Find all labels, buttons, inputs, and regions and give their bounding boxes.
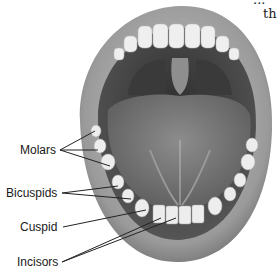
- label-bicuspids: Bicuspids: [6, 186, 57, 200]
- cropped-text-line-2: th: [263, 6, 277, 22]
- label-cuspid: Cuspid: [20, 220, 57, 234]
- label-molars: Molars: [20, 143, 56, 157]
- mouth-diagram: ... th Molars Bicuspids Cuspid Incisors: [0, 0, 277, 277]
- mouth-illustration: [0, 0, 277, 277]
- label-incisors: Incisors: [17, 255, 58, 269]
